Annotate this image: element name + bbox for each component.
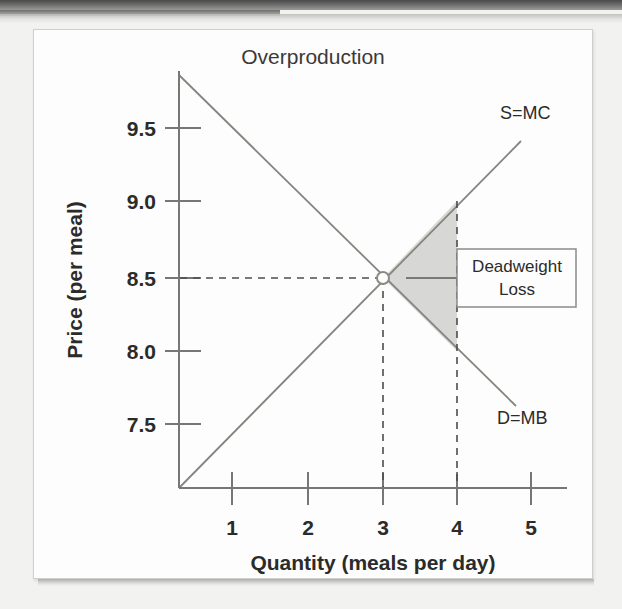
- y-tick-label-8-5: 8.5: [127, 267, 157, 290]
- scan-artifact-soft-band: [0, 14, 622, 23]
- y-tick-label-9-0: 9.0: [127, 190, 156, 213]
- demand-curve-line: [179, 75, 516, 406]
- y-tick-label-7-5: 7.5: [127, 413, 157, 436]
- card-drop-shadow: [38, 579, 594, 586]
- x-tick-label-3: 3: [377, 516, 389, 539]
- supply-curve-line: [179, 141, 521, 488]
- x-tick-label-2: 2: [302, 516, 314, 539]
- y-tick-label-8-0: 8.0: [127, 340, 156, 363]
- x-axis-title: Quantity (meals per day): [250, 551, 495, 574]
- overproduction-chart: Overproduction 9.5 9.0 8.5 8.0 7.5 1 2: [34, 30, 592, 578]
- deadweight-loss-callout-line1: Deadweight: [472, 257, 562, 276]
- scan-artifact-top-band: [0, 0, 622, 10]
- figure-card: Overproduction 9.5 9.0 8.5 8.0 7.5 1 2: [33, 29, 593, 579]
- x-tick-label-5: 5: [525, 516, 537, 539]
- chart-title: Overproduction: [241, 45, 385, 68]
- y-tick-label-9-5: 9.5: [127, 117, 157, 140]
- demand-curve-label: D=MB: [497, 408, 548, 428]
- supply-curve-label: S=MC: [500, 103, 551, 123]
- y-axis-title: Price (per meal): [63, 201, 86, 359]
- x-tick-label-4: 4: [451, 516, 463, 539]
- x-tick-label-1: 1: [226, 516, 238, 539]
- equilibrium-point-marker: [377, 272, 389, 284]
- deadweight-loss-callout-line2: Loss: [499, 280, 535, 299]
- deadweight-loss-region: [383, 201, 457, 351]
